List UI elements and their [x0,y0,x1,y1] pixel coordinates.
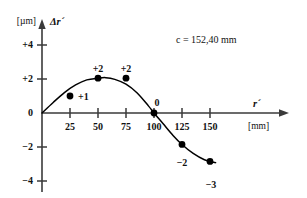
point-label-100: 0 [155,98,160,108]
y-tick-label-2: +2 [22,74,33,84]
x-tick-label-100: 100 [147,122,162,132]
y-tick-label-minus2: −2 [22,142,33,152]
data-point [179,141,186,148]
x-tick-label-75: 75 [121,122,131,132]
point-label-25: +1 [78,92,89,102]
data-point [123,75,130,82]
x-tick-label-150: 150 [203,122,218,132]
x-axis-title: r´ [253,99,261,110]
y-axis [37,19,47,192]
x-axis-unit-label: [mm] [248,122,269,132]
y-tick-label-4: +4 [22,40,33,50]
data-point [207,158,214,165]
point-label-50: +2 [93,64,104,74]
x-tick-label-25: 25 [65,122,75,132]
x-tick-label-50: 50 [93,122,103,132]
y-axis-title: Δr´ [50,17,64,28]
data-point [67,93,74,100]
y-tick-label-minus4: −4 [22,176,33,186]
point-label-125: −2 [177,158,188,168]
point-label-75: +2 [121,64,132,74]
data-point [151,110,158,117]
data-point [95,75,102,82]
y-axis-unit-label: [µm] [17,17,36,27]
chart-annotation: c = 152,40 mm [176,35,237,45]
point-label-150: −3 [206,180,217,190]
x-tick-label-125: 125 [175,122,190,132]
chart-container: [µm] Δr´ +4 +2 0 −2 −4 25 50 75 100 125 … [0,0,307,198]
x-axis [42,108,289,118]
y-tick-label-0: 0 [28,108,33,118]
